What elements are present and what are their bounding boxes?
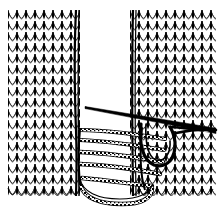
background [0,0,222,210]
illustration-canvas [0,0,222,210]
knitting-seam-illustration: Seaming two knitted panels with a yarn n… [0,0,222,210]
left-panel-stitch-legs [7,10,81,195]
